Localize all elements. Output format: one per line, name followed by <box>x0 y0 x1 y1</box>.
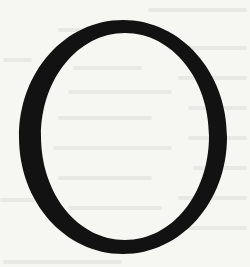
scanned-page: O <box>0 0 250 267</box>
letter-o-glyph <box>0 0 250 267</box>
